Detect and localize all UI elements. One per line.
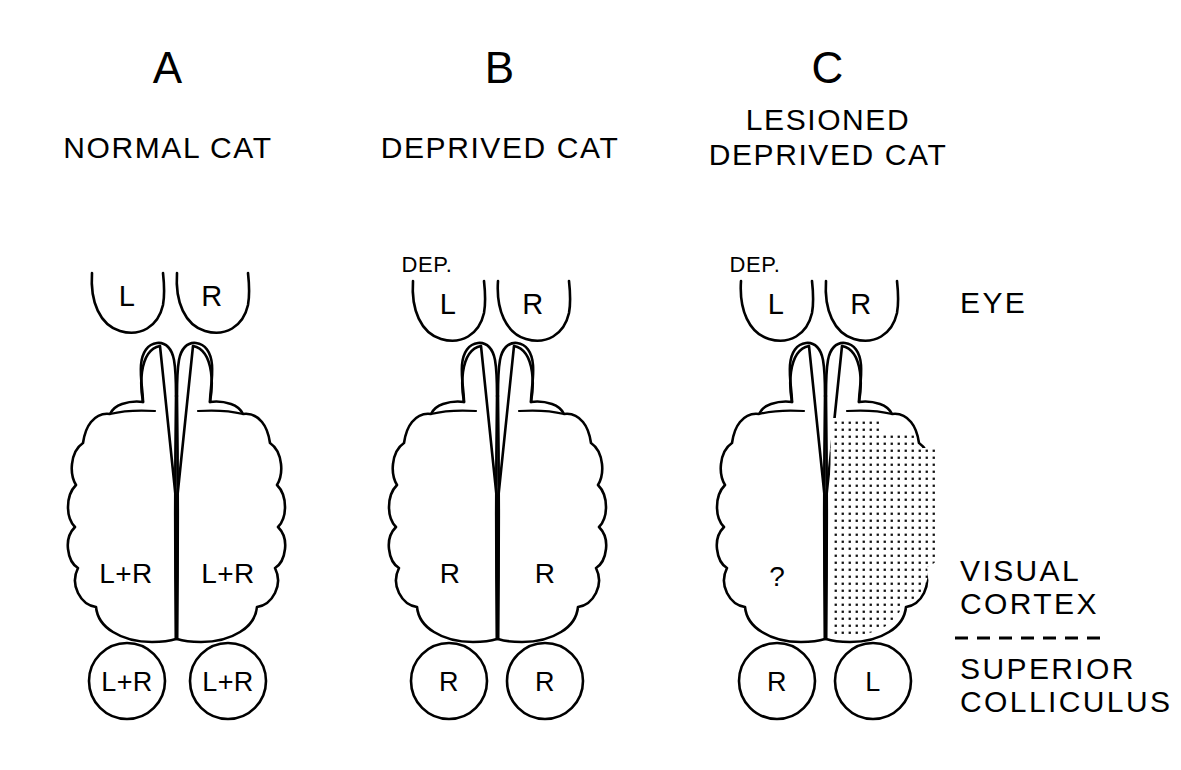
panel-a-cortex-right-label: L+R	[201, 558, 255, 589]
row-labels: EYE VISUAL CORTEX SUPERIOR COLLICULUS	[955, 286, 1172, 718]
panel-a-eye-right-label: R	[201, 280, 222, 312]
panel-a-eye-right: R	[177, 273, 249, 333]
panel-b-cortex-left-label: R	[440, 558, 461, 589]
panel-b-cortex-right-label: R	[535, 558, 556, 589]
panel-a: A NORMAL CAT L R L+R	[63, 43, 285, 719]
panel-c-colliculus-left: R	[739, 643, 815, 719]
row-label-eye: EYE	[960, 286, 1027, 319]
row-label-superior-colliculus-line-1: SUPERIOR	[960, 652, 1136, 685]
panel-b: B DEPRIVED CAT DEP. L R R R	[381, 43, 620, 719]
panel-b-colliculus-right: R	[507, 643, 583, 719]
panel-b-colliculus-left-label: R	[439, 667, 459, 697]
panel-c-eye-left-deprived-tag: DEP.	[730, 252, 781, 277]
panel-c-eye-left-label: L	[768, 288, 785, 320]
panel-b-midline-fissure	[496, 396, 497, 639]
panel-a-colliculus-left-label: L+R	[101, 667, 152, 697]
panel-a-cortex-left	[68, 346, 176, 642]
panel-c-cortex-left-label: ?	[769, 561, 785, 592]
panel-c-eye-right-label: R	[850, 288, 871, 320]
panel-c: C LESIONED DEPRIVED CAT DEP. L R	[709, 43, 948, 719]
panel-a-colliculus-left: L+R	[89, 643, 165, 719]
panel-c-letter: C	[812, 43, 845, 92]
row-label-superior-colliculus-line-2: COLLICULUS	[960, 685, 1172, 718]
panel-c-midline-fissure	[824, 396, 825, 639]
panel-c-cortex-left	[717, 346, 825, 642]
panel-a-cortex-right	[177, 346, 285, 642]
row-label-visual-cortex-line-1: VISUAL	[960, 554, 1081, 587]
panel-a-colliculus-right-label: L+R	[202, 667, 253, 697]
panel-a-title-line-1: NORMAL CAT	[63, 131, 272, 164]
panel-b-colliculus-right-label: R	[535, 667, 555, 697]
panel-b-eye-left: L	[413, 281, 485, 341]
panel-a-colliculus-right: L+R	[190, 643, 266, 719]
panel-a-eye-left-label: L	[119, 280, 136, 312]
panel-a-eye-left: L	[92, 273, 164, 333]
panel-a-midline-fissure-2	[177, 396, 178, 639]
panel-b-midline-fissure-2	[498, 396, 499, 639]
row-label-visual-cortex-line-2: CORTEX	[960, 587, 1099, 620]
panel-c-colliculus-right: L	[835, 643, 911, 719]
panel-c-midline-fissure-2	[826, 396, 827, 639]
panel-c-title-line-1: LESIONED	[746, 103, 911, 136]
panel-c-eye-left: L	[741, 281, 813, 341]
panel-b-eye-right-label: R	[522, 288, 543, 320]
panel-c-colliculus-left-label: R	[767, 667, 787, 697]
panel-b-colliculus-left: R	[411, 643, 487, 719]
panel-b-eye-right: R	[498, 281, 570, 341]
panel-a-midline-fissure	[175, 396, 176, 639]
panel-c-eye-right: R	[826, 281, 898, 341]
panel-a-letter: A	[153, 43, 183, 92]
panel-b-eye-left-deprived-tag: DEP.	[402, 252, 453, 277]
panel-a-cortex-left-label: L+R	[99, 558, 153, 589]
diagram-canvas: A NORMAL CAT L R L+R	[0, 0, 1181, 770]
panel-b-eye-left-label: L	[440, 288, 457, 320]
panel-c-colliculus-right-label: L	[865, 667, 880, 697]
figure-root: A NORMAL CAT L R L+R	[0, 0, 1181, 770]
panel-b-cortex-left	[389, 346, 497, 642]
panel-c-title-line-2: DEPRIVED CAT	[709, 138, 948, 171]
panel-b-letter: B	[485, 43, 515, 92]
panel-b-cortex-right	[498, 346, 606, 642]
panel-b-title-line-1: DEPRIVED CAT	[381, 131, 620, 164]
panel-c-lesion-region	[826, 418, 938, 644]
